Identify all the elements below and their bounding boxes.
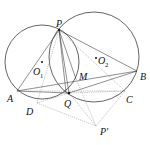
- point-p: [58, 29, 60, 31]
- segment-qp-prime: [69, 93, 96, 126]
- segment-aq: [17, 91, 69, 93]
- label-o2-sub: 2: [105, 61, 108, 68]
- label-c: C: [126, 94, 133, 105]
- point-o2: [95, 57, 97, 59]
- geometry-diagram: P A B Q M C D P′ O 1 O 2: [0, 0, 150, 145]
- point-o1: [41, 61, 43, 63]
- label-q: Q: [64, 98, 72, 109]
- segment-qc: [69, 91, 125, 93]
- segment-pc: [59, 30, 125, 91]
- label-m: M: [78, 71, 88, 82]
- point-q: [68, 92, 70, 94]
- label-p: P: [55, 18, 62, 29]
- label-d: D: [25, 106, 34, 117]
- segment-pa: [17, 30, 59, 91]
- label-a: A: [6, 93, 14, 104]
- label-b: B: [140, 71, 146, 82]
- label-o1-sub: 1: [40, 72, 43, 79]
- segment-cp-prime: [96, 91, 125, 126]
- segment-mp-prime: [76, 79, 96, 126]
- label-p-prime: P′: [99, 126, 109, 137]
- circle-o2: [49, 12, 139, 102]
